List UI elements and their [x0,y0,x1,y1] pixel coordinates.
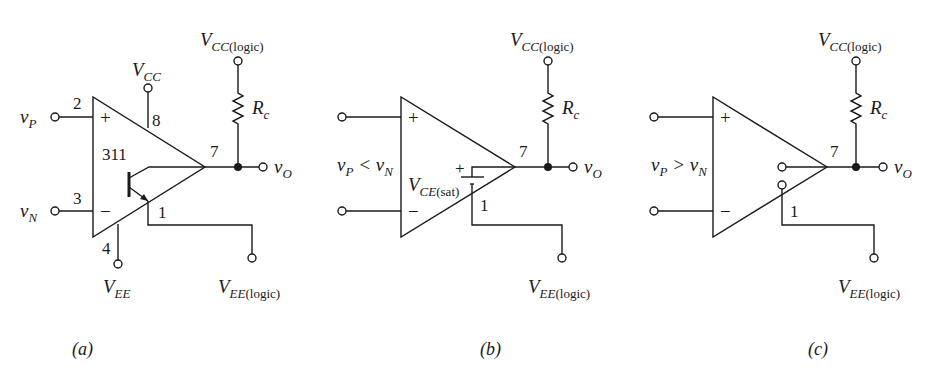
plus-sign: + [408,107,419,128]
transistor-collector [129,167,205,178]
vee-logic-label: VEE(logic) [218,276,280,301]
vee-terminal [114,260,122,268]
vee-label: VEE [103,276,131,301]
pin-2: 2 [73,94,82,113]
vn-terminal [51,207,59,215]
vcc-logic-label: VCC(logic) [510,29,574,54]
comparator-figure: vP vN 2 3 + − 311 VCC 8 4 VEE 1 VEE(logi… [0,0,934,377]
vee-logic-label: VEE(logic) [838,276,900,301]
chip-label: 311 [102,145,127,164]
sat-plus: + [455,159,465,178]
pin-1: 1 [158,203,167,222]
vo-terminal [569,163,577,171]
rc-label: Rc [869,97,888,122]
open-emitter-terminal [778,181,786,189]
resistor-rc [543,65,553,167]
pin-7: 7 [830,142,839,161]
vp-label: vP [20,106,36,131]
rc-label: Rc [251,97,270,122]
vo-terminal [259,163,267,171]
vce-sat-label: VCE(sat) [408,174,459,199]
vcc-logic-terminal [544,57,552,65]
vcc-logic-terminal [852,57,860,65]
resistor-rc [851,65,861,167]
inv-terminal [650,207,658,215]
vcc-logic-label: VCC(logic) [200,29,264,54]
condition-label: vP > vN [651,154,708,179]
vo-label: vO [584,156,602,181]
vcc-logic-label: VCC(logic) [818,29,882,54]
plus-sign: + [100,107,111,128]
plus-sign: + [720,107,731,128]
pin-7: 7 [519,142,528,161]
caption-b: (b) [480,339,501,360]
minus-sign: − [100,201,111,222]
pin-4: 4 [102,239,111,258]
vee-logic-label: VEE(logic) [528,276,590,301]
noninv-terminal [338,113,346,121]
pin-3: 3 [73,189,82,208]
vcc-label: VCC [132,59,161,84]
caption-a: (a) [72,339,93,360]
inv-terminal [338,207,346,215]
vcc-terminal [144,84,152,92]
vee-logic-terminal [870,254,878,262]
noninv-terminal [650,113,658,121]
caption-c: (c) [808,339,828,360]
rc-label: Rc [561,97,580,122]
resistor-rc [233,65,243,167]
condition-label: vP < vN [337,154,394,179]
pin-1: 1 [480,196,489,215]
vee-logic-terminal [248,254,256,262]
pin-8: 8 [152,111,161,130]
vn-label: vN [20,200,38,225]
panel-c: + − vP > vN 1 VEE(logic) vO 7 Rc VCC(log… [650,29,912,360]
open-collector-terminal [778,163,786,171]
vo-label: vO [894,156,912,181]
minus-sign: − [720,201,731,222]
pin-7: 7 [210,142,219,161]
vee-logic-terminal [558,254,566,262]
minus-sign: − [408,201,419,222]
vp-terminal [51,113,59,121]
vo-label: vO [274,156,292,181]
emitter-arrow-icon [140,194,148,201]
pin-1: 1 [790,202,799,221]
panel-a: vP vN 2 3 + − 311 VCC 8 4 VEE 1 VEE(logi… [20,29,292,360]
vcc-logic-terminal [234,57,242,65]
panel-b: + − vP < vN + VCE(sat) 1 VEE(logic) vO 7… [337,29,602,360]
vo-terminal [879,163,887,171]
